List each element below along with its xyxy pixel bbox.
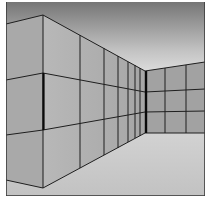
- hallway-illusion-image: [0, 0, 210, 205]
- left-wall: [6, 15, 43, 188]
- far-wall: [145, 62, 205, 133]
